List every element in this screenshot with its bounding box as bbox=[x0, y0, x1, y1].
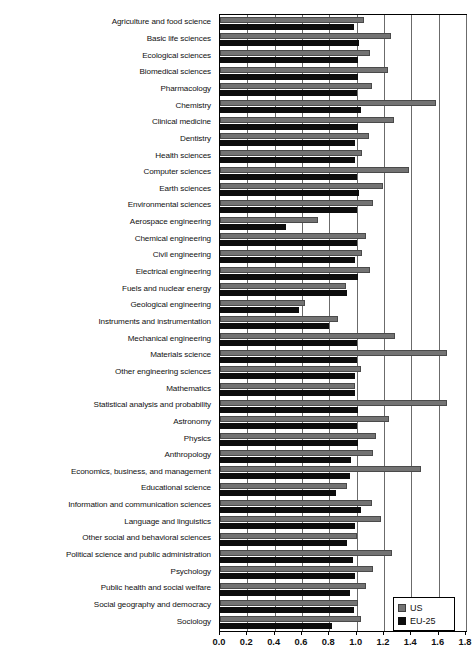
bar-us bbox=[220, 350, 447, 356]
category-label: Dentistry bbox=[180, 134, 211, 143]
bar-eu25 bbox=[220, 590, 350, 596]
bar-eu25 bbox=[220, 257, 355, 263]
bar-eu25 bbox=[220, 390, 355, 396]
bar-row bbox=[220, 248, 466, 265]
bar-us bbox=[220, 533, 357, 539]
bar-us bbox=[220, 500, 372, 506]
bar-eu25 bbox=[220, 240, 357, 246]
bar-eu25 bbox=[220, 24, 354, 30]
bar-us bbox=[220, 200, 373, 206]
category-label: Language and linguistics bbox=[124, 517, 211, 526]
bar-eu25 bbox=[220, 407, 358, 413]
x-tick-label: 0.6 bbox=[295, 637, 308, 647]
x-tick-label: 0.8 bbox=[322, 637, 335, 647]
category-label: Geological engineering bbox=[130, 300, 211, 309]
category-label: Statistical analysis and probability bbox=[94, 400, 211, 409]
bar-eu25 bbox=[220, 224, 286, 230]
x-tick-label: 0.2 bbox=[240, 637, 253, 647]
bar-us bbox=[220, 566, 373, 572]
x-axis: 0.00.20.40.60.81.01.21.41.61.8 bbox=[219, 631, 465, 659]
category-label: Environmental sciences bbox=[128, 200, 211, 209]
bar-us bbox=[220, 433, 376, 439]
bar-eu25 bbox=[220, 423, 357, 429]
bar-eu25 bbox=[220, 57, 358, 63]
legend-item-eu25: EU-25 bbox=[398, 614, 450, 627]
bar-us bbox=[220, 383, 355, 389]
x-tick-mark bbox=[274, 631, 275, 635]
bar-row bbox=[220, 514, 466, 531]
category-label: Materials science bbox=[150, 350, 211, 359]
bar-row bbox=[220, 448, 466, 465]
category-label: Mechanical engineering bbox=[128, 334, 211, 343]
bar-us bbox=[220, 233, 366, 239]
category-label: Social geography and democracy bbox=[94, 600, 211, 609]
bar-eu25 bbox=[220, 290, 347, 296]
bar-eu25 bbox=[220, 140, 355, 146]
category-label: Pharmacology bbox=[160, 84, 211, 93]
bar-us bbox=[220, 33, 391, 39]
legend-swatch-eu25-icon bbox=[398, 617, 406, 625]
bar-row bbox=[220, 298, 466, 315]
category-label: Other social and behavioral sciences bbox=[82, 533, 211, 542]
category-label: Astronomy bbox=[173, 417, 211, 426]
bar-row bbox=[220, 32, 466, 49]
bar-row bbox=[220, 82, 466, 99]
bar-row bbox=[220, 215, 466, 232]
bar-us bbox=[220, 600, 358, 606]
category-label: Physics bbox=[184, 434, 211, 443]
bar-row bbox=[220, 132, 466, 149]
bar-row bbox=[220, 15, 466, 32]
bar-row bbox=[220, 181, 466, 198]
category-label: Basic life sciences bbox=[147, 34, 211, 43]
bar-eu25 bbox=[220, 373, 355, 379]
bar-row bbox=[220, 564, 466, 581]
bar-row bbox=[220, 48, 466, 65]
bar-us bbox=[220, 300, 305, 306]
x-tick-mark bbox=[219, 631, 220, 635]
bar-us bbox=[220, 283, 346, 289]
category-label: Mathematics bbox=[166, 384, 211, 393]
category-label: Other engineering sciences bbox=[115, 367, 211, 376]
bar-row bbox=[220, 481, 466, 498]
x-tick-mark bbox=[410, 631, 411, 635]
bar-eu25 bbox=[220, 557, 353, 563]
category-label: Earth sciences bbox=[159, 184, 211, 193]
category-label: Computer sciences bbox=[143, 167, 211, 176]
bar-eu25 bbox=[220, 490, 336, 496]
bar-row bbox=[220, 165, 466, 182]
category-label: Information and communication sciences bbox=[68, 500, 211, 509]
bar-row bbox=[220, 98, 466, 115]
x-tick-mark bbox=[301, 631, 302, 635]
bar-us bbox=[220, 450, 373, 456]
x-tick-label: 1.8 bbox=[459, 637, 472, 647]
category-label: Electrical engineering bbox=[136, 267, 211, 276]
bar-us bbox=[220, 83, 372, 89]
bar-row bbox=[220, 365, 466, 382]
bar-row bbox=[220, 415, 466, 432]
bar-us bbox=[220, 150, 362, 156]
bar-eu25 bbox=[220, 174, 357, 180]
category-label: Clinical medicine bbox=[152, 117, 211, 126]
bar-eu25 bbox=[220, 274, 358, 280]
bar-eu25 bbox=[220, 207, 357, 213]
bar-row bbox=[220, 265, 466, 282]
bar-eu25 bbox=[220, 607, 354, 613]
bar-row bbox=[220, 231, 466, 248]
category-label: Biomedical sciences bbox=[140, 67, 211, 76]
bar-us bbox=[220, 616, 361, 622]
x-tick-mark bbox=[328, 631, 329, 635]
bar-us bbox=[220, 400, 447, 406]
x-tick-mark bbox=[438, 631, 439, 635]
bar-us bbox=[220, 316, 338, 322]
bar-eu25 bbox=[220, 90, 357, 96]
bar-chart: Agriculture and food scienceBasic life s… bbox=[0, 0, 474, 669]
bar-eu25 bbox=[220, 440, 358, 446]
category-label: Educational science bbox=[141, 483, 211, 492]
category-label: Public health and social welfare bbox=[101, 583, 211, 592]
bar-row bbox=[220, 115, 466, 132]
category-label: Instruments and instrumentation bbox=[98, 317, 211, 326]
bar-eu25 bbox=[220, 573, 355, 579]
category-axis-labels: Agriculture and food scienceBasic life s… bbox=[0, 14, 215, 630]
category-label: Aerospace engineering bbox=[130, 217, 211, 226]
bar-row bbox=[220, 548, 466, 565]
